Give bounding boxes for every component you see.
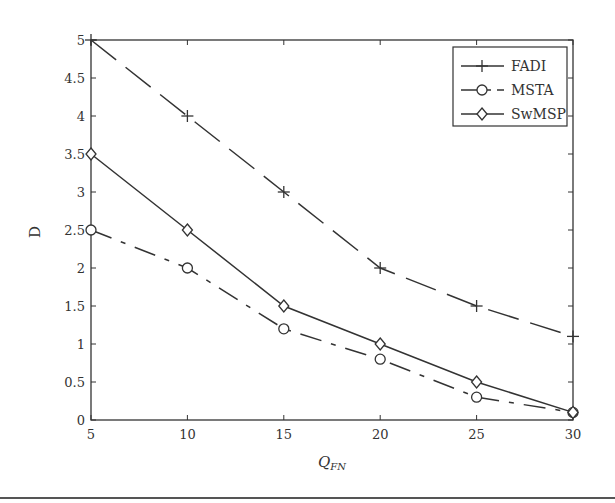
y-tick-label: 4.5 bbox=[64, 71, 85, 86]
legend-label: FADI bbox=[511, 58, 546, 74]
x-tick-label: 30 bbox=[565, 427, 582, 442]
y-axis-label: D bbox=[26, 226, 44, 238]
y-tick-label: 0.5 bbox=[64, 375, 85, 390]
y-tick-label: 5 bbox=[77, 33, 85, 48]
legend-label: SwMSP bbox=[511, 106, 566, 122]
y-tick-label: 1.5 bbox=[64, 299, 85, 314]
legend-label: MSTA bbox=[511, 82, 554, 98]
legend: FADIMSTASwMSP bbox=[453, 47, 567, 126]
series-msta bbox=[86, 225, 578, 417]
y-tick-label: 4 bbox=[77, 109, 85, 124]
y-tick-label: 0 bbox=[77, 413, 85, 428]
x-tick-label: 15 bbox=[276, 427, 293, 442]
series-swmsp bbox=[86, 148, 578, 418]
y-tick-label: 1 bbox=[77, 337, 85, 352]
x-tick-label: 10 bbox=[179, 427, 196, 442]
y-tick-label: 3 bbox=[77, 185, 85, 200]
bottom-rule bbox=[0, 497, 615, 499]
x-tick-label: 5 bbox=[87, 427, 95, 442]
x-tick-label: 20 bbox=[372, 427, 389, 442]
x-tick-label: 25 bbox=[468, 427, 485, 442]
y-tick-label: 2 bbox=[77, 261, 85, 276]
line-chart: 00.511.522.533.544.55 51015202530 D QFN … bbox=[0, 0, 615, 503]
y-tick-label: 2.5 bbox=[64, 223, 85, 238]
y-tick-label: 3.5 bbox=[64, 147, 85, 162]
x-axis-label: QFN bbox=[318, 453, 347, 472]
